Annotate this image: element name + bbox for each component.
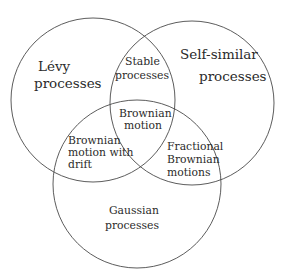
gaussian-processes-label: Gaussian processes [105, 204, 159, 232]
brownian-motion-label: Brownian motion [119, 107, 172, 132]
levy-processes-label: Lévy processes [34, 58, 102, 91]
self-similar-label-line-1: Self-similar [180, 46, 258, 62]
fractional-brownian-motions-label: Fractional Brownian motions [167, 140, 224, 179]
levy-label-line-1: Lévy [38, 58, 71, 74]
brownian-motion-with-drift-label: Brownian motion with drift [68, 134, 133, 171]
fbm-label-line-3: motions [167, 166, 211, 179]
stable-label-line-1: Stable [125, 55, 160, 68]
brownian-motion-line-2: motion [124, 119, 162, 132]
self-similar-processes-label: Self-similar processes [180, 46, 267, 84]
drift-label-line-3: drift [68, 158, 93, 171]
venn-diagram: Lévy processes Self-similar processes St… [0, 0, 281, 275]
fbm-label-line-2: Brownian [167, 153, 220, 166]
fbm-label-line-1: Fractional [167, 140, 224, 153]
self-similar-label-line-2: processes [199, 68, 267, 84]
stable-label-line-2: processes [115, 69, 169, 82]
gaussian-label-line-2: processes [105, 219, 159, 232]
levy-label-line-2: processes [34, 75, 102, 91]
gaussian-label-line-1: Gaussian [109, 204, 159, 217]
